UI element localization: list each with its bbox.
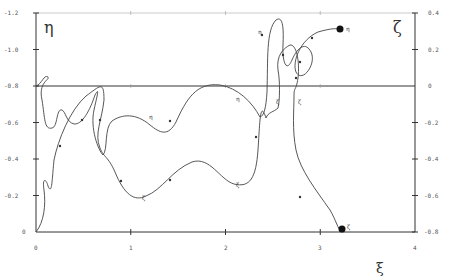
y-right-tick-label: -0.6	[424, 192, 439, 199]
curve-label: ζ	[142, 194, 146, 202]
x-tick-label: 0	[34, 244, 38, 251]
curve-label: ζ	[298, 98, 302, 106]
right-ticks: 0.4 0.2 0 -0.2 -0.4 -0.6 -0.8	[412, 9, 439, 235]
zeta-end-label: ζ	[347, 223, 351, 231]
left-ticks: -1.2 -1.0 -0.8 -0.6 -0.4 -0.2 0	[4, 9, 39, 235]
x-tick-label: 3	[318, 244, 322, 251]
y-left-tick-label: -1.2	[4, 9, 19, 16]
y-right-tick-label: 0.2	[428, 46, 439, 53]
eta-end-point	[337, 26, 344, 33]
x-axis-label: ξ	[376, 260, 384, 276]
x-tick-label: 4	[413, 244, 417, 251]
direction-markers	[59, 34, 313, 198]
y-right-axis-label: ζ	[393, 18, 402, 37]
zeta-end-point	[339, 226, 346, 233]
y-left-tick-label: -1.0	[4, 46, 19, 53]
x-tick-label: 2	[224, 244, 228, 251]
y-left-tick-label: 0	[22, 228, 26, 235]
eta-end-label: η	[346, 25, 350, 33]
y-left-tick-label: -0.2	[4, 192, 19, 199]
y-right-tick-label: 0	[428, 82, 432, 89]
y-left-axis-label: η	[44, 18, 54, 37]
y-right-tick-label: -0.2	[424, 119, 439, 126]
curve-label: η	[149, 113, 153, 121]
y-right-tick-label: -0.4	[424, 155, 439, 162]
y-left-tick-label: -0.6	[4, 119, 19, 126]
trajectory-chart: -1.2 -1.0 -0.8 -0.6 -0.4 -0.2 0 0.4 0.2 …	[0, 0, 451, 279]
y-left-tick-label: -0.4	[4, 155, 19, 162]
y-right-tick-label: 0.4	[428, 9, 439, 16]
y-right-tick-label: -0.8	[424, 228, 439, 235]
x-ticks: 0 1 2 3 4	[34, 11, 417, 251]
y-left-tick-label: -0.8	[4, 82, 19, 89]
curve-label: η	[258, 28, 262, 36]
x-tick-label: 1	[129, 244, 133, 251]
curve-label: η	[236, 95, 240, 103]
